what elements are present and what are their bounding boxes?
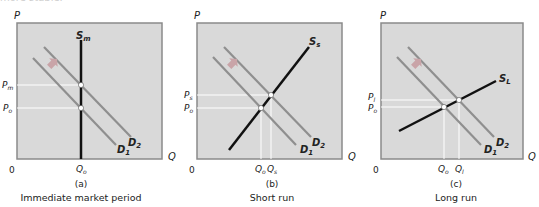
panel-c-long-run: P Q 0 SL D2 D1 Pl Po Qo Ql (c) Long run (368, 10, 536, 203)
panel-a-immediate-market: P Q 0 Sm D2 D1 Pm Po Qo (a) Immediate ma… (2, 10, 176, 203)
plot-area (17, 23, 162, 159)
axis-label-q: Q (348, 151, 356, 162)
equilibrium-point-initial (441, 104, 446, 109)
equilibrium-point-initial (258, 105, 263, 110)
price-label-pm: Pm (2, 80, 13, 91)
price-label-po: Po (3, 103, 12, 114)
axis-label-p: P (194, 10, 201, 21)
price-label-po: Po (368, 103, 377, 114)
axis-label-q: Q (168, 151, 176, 162)
price-label-po: Po (184, 103, 193, 114)
panel-caption: Immediate market period (20, 192, 141, 203)
origin-label: 0 (373, 165, 379, 175)
qty-label-qo: Qo (438, 164, 449, 175)
panel-letter: (a) (75, 179, 88, 189)
equilibrium-point-new (268, 92, 273, 97)
origin-label: 0 (9, 165, 15, 175)
equilibrium-point-new (78, 82, 83, 87)
price-label-ps: Ps (184, 90, 193, 101)
price-label-pl: Pl (368, 92, 375, 103)
panel-caption: Long run (435, 192, 477, 203)
panel-caption: Short run (250, 192, 294, 203)
origin-label: 0 (189, 165, 195, 175)
qty-label-qo: Qo (255, 164, 266, 175)
qty-label-qs: Qs (267, 164, 277, 175)
axis-label-p: P (380, 10, 387, 21)
panel-letter: (b) (266, 179, 279, 189)
equilibrium-point-new (456, 97, 461, 102)
qty-label-qo: Qo (76, 164, 87, 175)
panel-letter: (c) (450, 179, 462, 189)
axis-label-p: P (14, 10, 21, 21)
panel-b-short-run: P Q 0 Ss D2 D1 Ps Po Qo Qs (b) Short run (184, 10, 356, 203)
qty-label-ql: Ql (455, 164, 464, 175)
equilibrium-point-initial (78, 105, 83, 110)
axis-label-q: Q (528, 151, 536, 162)
